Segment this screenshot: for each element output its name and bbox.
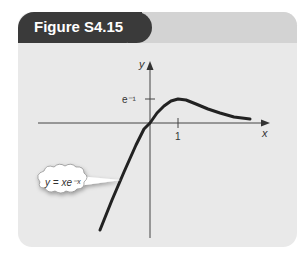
callout-label: y = xe⁻ˣ — [44, 177, 81, 188]
chart-plot: y x e⁻¹ 1 y = xe⁻ˣ — [0, 0, 308, 258]
y-tick-label: e⁻¹ — [122, 94, 137, 105]
x-tick-label: 1 — [175, 131, 181, 142]
x-axis-arrow-icon — [261, 120, 270, 127]
y-axis-label: y — [138, 58, 146, 70]
figure-title: Figure S4.15 — [34, 18, 123, 35]
x-axis-label: x — [261, 127, 268, 139]
y-axis-arrow-icon — [147, 61, 154, 70]
curve-xe-neg-x — [100, 99, 250, 230]
